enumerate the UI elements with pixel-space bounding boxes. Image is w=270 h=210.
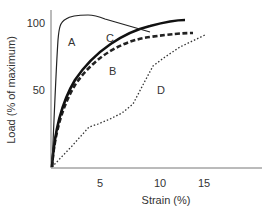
y-tick-100: 100 bbox=[27, 17, 45, 29]
curve-a bbox=[52, 15, 150, 167]
curve-b bbox=[52, 33, 193, 167]
x-tick-15: 15 bbox=[198, 177, 210, 189]
stress-strain-chart: 100 50 5 10 15 Strain (%) Load (% of max… bbox=[0, 0, 270, 210]
curve-d-label: D bbox=[157, 84, 165, 96]
curve-b-label: B bbox=[109, 65, 116, 77]
curve-d bbox=[52, 35, 205, 167]
y-axis-label: Load (% of maximum) bbox=[5, 36, 17, 144]
x-tick-10: 10 bbox=[154, 177, 166, 189]
curve-a-label: A bbox=[68, 36, 76, 48]
x-axis-label: Strain (%) bbox=[142, 194, 191, 206]
y-tick-50: 50 bbox=[33, 84, 45, 96]
curve-c-label: C bbox=[106, 32, 114, 44]
x-tick-5: 5 bbox=[97, 177, 103, 189]
